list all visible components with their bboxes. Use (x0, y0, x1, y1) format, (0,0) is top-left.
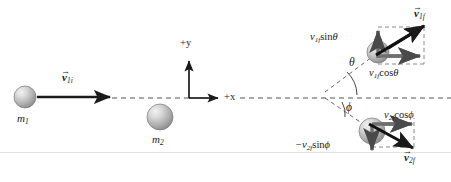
sphere-m1-initial (14, 86, 36, 108)
phi-label: ϕ (346, 102, 352, 114)
v1f-label: →v1f (414, 8, 425, 21)
sphere-m2-initial (147, 104, 173, 130)
y-axis-label: +y (180, 38, 191, 49)
phi-arc (342, 102, 345, 117)
mass-label-m1: m1 (17, 113, 29, 126)
theta-label: θ (349, 57, 355, 69)
neg-v2f-sin-phi-label: −v2fsinϕ (295, 140, 330, 152)
x-axis-label: +x (224, 92, 235, 103)
mass-label-m2: m2 (152, 134, 164, 147)
v1f-cos-theta-label: v1fcosθ (369, 68, 398, 80)
v1f-resultant-arrow-overlay (376, 26, 424, 55)
v1f-sin-theta-label: v1fsinθ (310, 32, 338, 44)
v2f-label: →v2f (404, 152, 415, 165)
theta-arc (347, 72, 357, 95)
collision-vector-diagram: m1 m2 +y +x →v1i →v1f →v2f v1fsinθ v1fco… (0, 0, 451, 182)
v2f-cos-phi-label: v2fcosϕ (384, 110, 414, 122)
v1i-label: →v1i (62, 72, 73, 85)
